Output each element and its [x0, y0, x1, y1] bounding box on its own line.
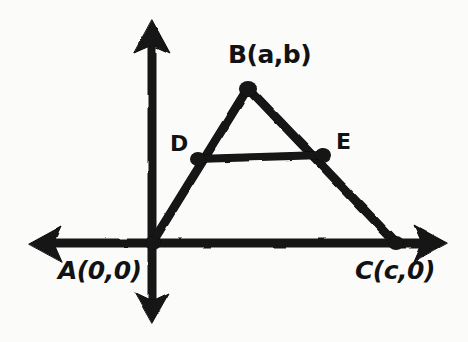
label-point-b: B(a,b) — [228, 42, 311, 67]
point-b-dot — [239, 81, 257, 97]
label-point-c: C(c,0) — [355, 258, 435, 283]
segment-bc — [248, 88, 396, 243]
label-point-a: A(0,0) — [58, 258, 142, 283]
point-a-dot — [145, 236, 161, 250]
segment-de — [197, 155, 323, 159]
label-point-e: E — [336, 131, 351, 153]
point-e-dot — [315, 148, 331, 162]
diagram-canvas: B(a,b) D E A(0,0) C(c,0) — [0, 0, 468, 342]
point-c-dot — [388, 236, 404, 250]
point-d-dot — [190, 152, 206, 166]
vertex-dots — [145, 81, 404, 250]
label-point-d: D — [170, 133, 188, 155]
